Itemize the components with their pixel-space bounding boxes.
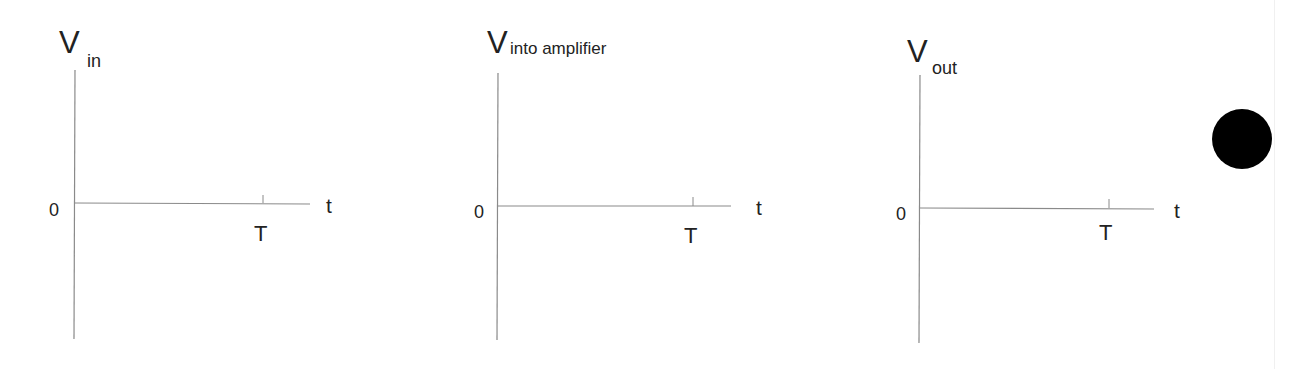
x-axis-label: t xyxy=(1174,199,1180,222)
diagram-canvas: V in 0 T t V into amplifier 0 T t V out … xyxy=(0,0,1304,369)
panel-title-main: V xyxy=(487,25,508,60)
tick-label-T: T xyxy=(1099,220,1112,245)
panel-vin: V in 0 T t xyxy=(49,25,332,339)
panel-title-sub: into amplifier xyxy=(510,39,607,58)
panel-title-main: V xyxy=(907,34,928,69)
origin-label: 0 xyxy=(474,202,484,222)
tick-label-T: T xyxy=(684,223,697,248)
x-axis xyxy=(75,203,310,204)
origin-label: 0 xyxy=(49,200,59,220)
tick-label-T: T xyxy=(254,221,267,246)
y-axis xyxy=(919,75,920,343)
panel-vout: V out 0 T t xyxy=(896,34,1180,343)
filled-circle-marker xyxy=(1212,109,1272,169)
panel-vinto-amplifier: V into amplifier 0 T t xyxy=(474,25,762,340)
y-axis xyxy=(497,73,498,340)
y-axis xyxy=(74,70,75,339)
panel-title-sub: out xyxy=(932,58,957,78)
x-axis-label: t xyxy=(756,196,762,219)
panel-title-main: V xyxy=(59,25,80,60)
panel-title-sub: in xyxy=(87,51,101,71)
x-axis xyxy=(920,208,1154,209)
x-axis-label: t xyxy=(326,194,332,217)
origin-label: 0 xyxy=(896,204,906,224)
